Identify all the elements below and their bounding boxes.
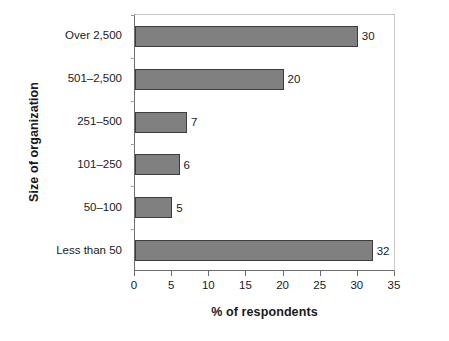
y-axis-tick [131, 101, 135, 102]
bar [135, 197, 172, 218]
x-axis-tick-label: 35 [374, 278, 414, 292]
x-axis-tick [134, 271, 135, 276]
bar [135, 112, 187, 133]
x-axis-tick [320, 271, 321, 276]
category-label: 251–500 [77, 114, 122, 128]
x-axis-tick-label: 10 [188, 278, 228, 292]
x-axis-tick [245, 271, 246, 276]
x-axis-tick [208, 271, 209, 276]
category-label: Less than 50 [56, 243, 122, 257]
x-axis-tick-label: 30 [337, 278, 377, 292]
bar-value-label: 7 [191, 115, 197, 129]
category-label: 501–2,500 [68, 71, 122, 85]
category-axis-labels: Less than 5050–100101–250251–500501–2,50… [36, 14, 128, 271]
x-axis-tick-label: 15 [225, 278, 265, 292]
y-axis-tick [131, 144, 135, 145]
bar-value-label: 6 [184, 158, 190, 172]
x-axis-tick-label: 25 [300, 278, 340, 292]
bar-value-label: 30 [362, 29, 375, 43]
bar-chart: Size of organization Less than 5050–1001… [0, 0, 449, 341]
bar [135, 26, 358, 47]
x-axis-tick-label: 20 [263, 278, 303, 292]
x-axis-tick [171, 271, 172, 276]
bar-value-label: 5 [176, 201, 182, 215]
category-label: 101–250 [77, 157, 122, 171]
bar [135, 69, 284, 90]
category-label: Over 2,500 [65, 28, 122, 42]
bar-value-label: 32 [377, 244, 390, 258]
x-axis-ticks [134, 271, 395, 277]
bar-value-label: 20 [288, 72, 301, 86]
y-axis-tick [131, 58, 135, 59]
x-axis-tick [283, 271, 284, 276]
y-axis-tick [131, 229, 135, 230]
x-axis-tick-labels: 05101520253035 [134, 278, 395, 294]
bar [135, 240, 373, 261]
y-axis-tick [131, 186, 135, 187]
x-axis-tick-label: 5 [151, 278, 191, 292]
x-axis-tick [357, 271, 358, 276]
x-axis-tick [394, 271, 395, 276]
plot-area: 325672030 [134, 14, 395, 271]
bar [135, 154, 180, 175]
x-axis-title: % of respondents [134, 305, 395, 319]
category-label: 50–100 [84, 200, 122, 214]
x-axis-tick-label: 0 [114, 278, 154, 292]
y-axis-tick [131, 15, 135, 16]
